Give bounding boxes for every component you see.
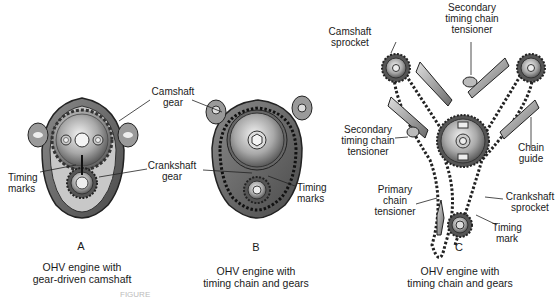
label-line: Camshaft bbox=[150, 86, 196, 97]
label-line: marks bbox=[297, 193, 327, 204]
caption-line: gear-driven camshaft bbox=[22, 273, 142, 285]
label-line: mark bbox=[491, 233, 523, 244]
label-line: tensioner bbox=[372, 206, 418, 217]
label-primary-chain-tensioner: Primary chain tensioner bbox=[372, 184, 418, 217]
label-line: sprocket bbox=[503, 202, 557, 213]
timing-diagrams-artwork bbox=[0, 0, 557, 297]
panel-a-diagram bbox=[28, 98, 150, 218]
label-camshaft-gear-a: Camshaft gear bbox=[150, 86, 196, 108]
panel-letter-b: B bbox=[246, 241, 266, 253]
label-secondary-tensioner-top: Secondary timing chain tensioner bbox=[432, 2, 512, 35]
caption-line: timing chain and gears bbox=[400, 277, 520, 289]
label-camshaft-sprocket: Camshaft sprocket bbox=[326, 26, 374, 48]
label-line: Secondary bbox=[432, 2, 512, 13]
label-line: tensioner bbox=[340, 146, 396, 157]
label-line: tensioner bbox=[432, 24, 512, 35]
figure-caption-cutoff: FIGURE bbox=[120, 290, 420, 297]
caption-line: OHV engine with bbox=[400, 265, 520, 277]
label-line: Chain bbox=[515, 142, 547, 153]
label-timing-mark-c: Timing mark bbox=[491, 222, 523, 244]
label-chain-guide: Chain guide bbox=[515, 142, 547, 164]
caption-line: OHV engine with bbox=[22, 261, 142, 273]
panel-letter-c: C bbox=[449, 241, 469, 253]
caption-panel-b: OHV engine with timing chain and gears bbox=[196, 265, 316, 289]
label-crankshaft-sprocket: Crankshaft sprocket bbox=[503, 191, 557, 213]
label-line: Timing bbox=[491, 222, 523, 233]
label-line: marks bbox=[8, 183, 38, 194]
label-line: gear bbox=[146, 171, 198, 182]
panel-b-diagram bbox=[192, 96, 312, 218]
label-line: Camshaft bbox=[326, 26, 374, 37]
caption-panel-c: OHV engine with timing chain and gears bbox=[400, 265, 520, 289]
panel-letter-a: A bbox=[71, 240, 91, 252]
label-line: Secondary bbox=[340, 124, 396, 135]
label-line: Primary bbox=[372, 184, 418, 195]
label-line: chain bbox=[372, 195, 418, 206]
caption-line: timing chain and gears bbox=[196, 277, 316, 289]
label-line: Timing bbox=[8, 172, 38, 183]
label-secondary-tensioner-left: Secondary timing chain tensioner bbox=[340, 124, 396, 157]
label-timing-marks-b: Timing marks bbox=[297, 182, 327, 204]
caption-line: OHV engine with bbox=[196, 265, 316, 277]
label-timing-marks-a: Timing marks bbox=[8, 172, 38, 194]
label-line: Crankshaft bbox=[146, 160, 198, 171]
label-line: sprocket bbox=[326, 37, 374, 48]
label-line: guide bbox=[515, 153, 547, 164]
label-line: gear bbox=[150, 97, 196, 108]
label-line: timing chain bbox=[340, 135, 396, 146]
label-line: Timing bbox=[297, 182, 327, 193]
label-line: Crankshaft bbox=[503, 191, 557, 202]
label-crankshaft-gear-a: Crankshaft gear bbox=[146, 160, 198, 182]
label-line: timing chain bbox=[432, 13, 512, 24]
caption-panel-a: OHV engine with gear-driven camshaft bbox=[22, 261, 142, 285]
